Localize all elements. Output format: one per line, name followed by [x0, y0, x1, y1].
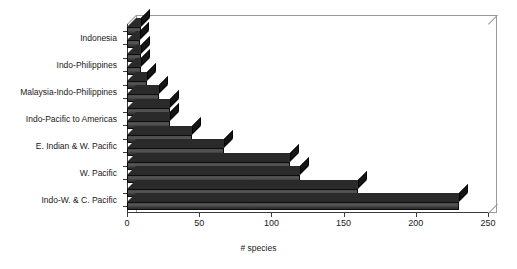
x-tick-label-3: 150 [324, 218, 364, 228]
y-axis-tick [123, 179, 127, 180]
y-axis-tick [123, 71, 127, 72]
y-axis-tick [123, 125, 127, 126]
x-tick-label-4: 200 [396, 218, 436, 228]
bar-end-cap [147, 63, 156, 80]
y-axis-tick [123, 206, 127, 207]
x-tick-label-0: 0 [107, 218, 147, 228]
bar-top-face [127, 180, 367, 189]
x-axis-tick [127, 213, 128, 217]
y-axis-label-2: Malaysia-Indo-Philippines [20, 87, 117, 97]
bar-end-cap [459, 184, 468, 201]
bar-top-face [127, 139, 233, 148]
y-axis-tick [123, 152, 127, 153]
y-axis-tick [123, 112, 127, 113]
x-axis-title: # species [0, 243, 517, 253]
y-axis-label-1: Indo-Philippines [57, 60, 117, 70]
y-axis-tick [123, 193, 127, 194]
x-axis-tick [199, 213, 200, 217]
bar-top-face [127, 153, 299, 162]
x-axis-tick [271, 213, 272, 217]
y-axis-tick [123, 98, 127, 99]
bar-chart: Indonesia Indo-Philippines Malaysia-Indo… [0, 0, 517, 269]
y-axis-label-4: E. Indian & W. Pacific [36, 141, 117, 151]
bar-top-face [127, 126, 201, 135]
x-tick-label-2: 100 [251, 218, 291, 228]
x-axis-tick [488, 213, 489, 217]
y-axis-labels: Indonesia Indo-Philippines Malaysia-Indo… [0, 24, 123, 213]
y-axis-tick [123, 166, 127, 167]
bar-end-cap [159, 76, 168, 93]
y-axis-tick [123, 31, 127, 32]
bar-top-face [127, 166, 309, 175]
y-axis-label-6: Indo-W. & C. Pacific [41, 195, 117, 205]
x-axis-tick [416, 213, 417, 217]
x-tick-label-1: 50 [179, 218, 219, 228]
y-axis-tick [123, 85, 127, 86]
bar-end-cap [224, 130, 233, 147]
bar-top-face [127, 193, 468, 202]
y-axis-label-5: W. Pacific [80, 168, 117, 178]
y-axis-label-3: Indo-Pacific to Americas [26, 114, 117, 124]
x-tick-label-5: 250 [468, 218, 508, 228]
bar-end-cap [358, 171, 367, 188]
bar-end-cap [290, 144, 299, 161]
bar [127, 202, 468, 210]
bar-end-cap [192, 117, 201, 134]
bar-end-cap [300, 157, 309, 174]
y-axis-tick [123, 139, 127, 140]
y-axis-tick [123, 44, 127, 45]
x-axis-tick-labels: 0 50 100 150 200 250 [0, 218, 517, 232]
bars-layer [127, 24, 488, 213]
x-axis-tick [344, 213, 345, 217]
y-axis-label-0: Indonesia [80, 33, 117, 43]
y-axis-tick [123, 58, 127, 59]
bar-front-face [127, 202, 459, 210]
